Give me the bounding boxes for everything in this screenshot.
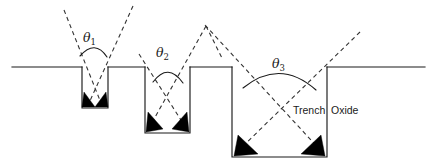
trench-oxide-label-left: Trench <box>293 104 325 116</box>
trench-3-flux-line-right <box>237 32 360 152</box>
trench-3-arrowhead-right <box>301 135 325 156</box>
trench-3-flux-line-left <box>205 25 322 152</box>
trench-2-arrowhead-right <box>172 112 189 132</box>
trench-1-arrowhead-right <box>95 92 108 107</box>
trench-1-arrowhead-left <box>82 92 95 107</box>
trench-2-flux-line-right-extension <box>206 26 222 58</box>
trench-1-flux-group <box>64 6 133 107</box>
trench-3-flux-group <box>205 25 360 156</box>
trench-2-angle-arc <box>153 72 183 83</box>
theta-3-label: θ3 <box>272 56 285 73</box>
trench-3-angle-arc <box>243 73 316 90</box>
trench-1-angle-arc <box>80 48 107 57</box>
trench-2-flux-group <box>139 26 222 132</box>
trench-oxide-label-right: Oxide <box>331 104 359 116</box>
trench-2-arrowhead-left <box>146 112 163 132</box>
trench-cross-section-svg: θ1 θ2 θ3 Trench Oxide <box>0 0 437 168</box>
trench-diagram-figure: θ1 θ2 θ3 Trench Oxide <box>0 0 437 168</box>
theta-2-label: θ2 <box>156 45 169 62</box>
trench-3-arrowhead-left <box>234 135 258 156</box>
trench-2-flux-line-left <box>139 54 186 128</box>
theta-1-label: θ1 <box>83 30 96 47</box>
substrate-outline-group <box>12 67 425 157</box>
